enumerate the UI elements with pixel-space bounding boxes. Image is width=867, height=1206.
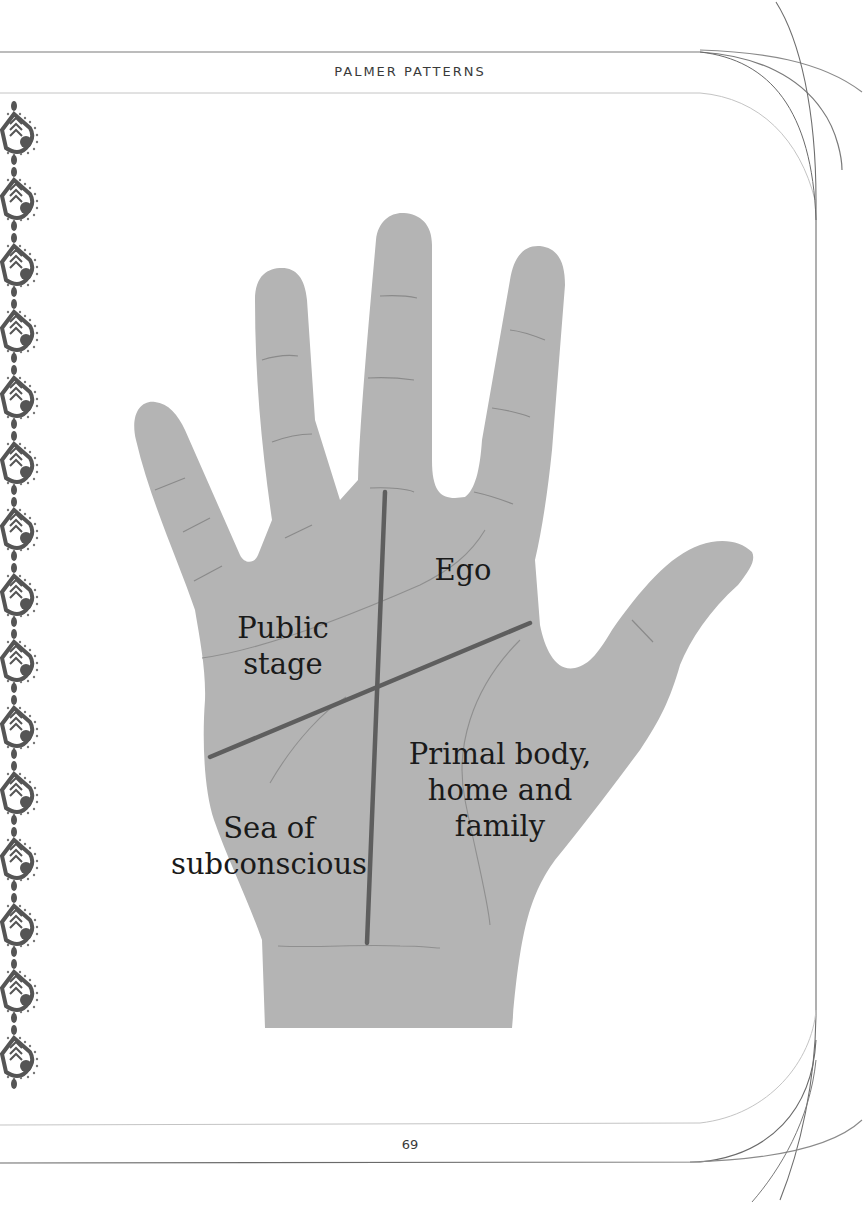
book-page: PALMER PATTERNS bbox=[0, 0, 867, 1206]
quadrant-label-ego: Ego bbox=[418, 552, 508, 588]
quadrant-label-public-stage: Public stage bbox=[218, 610, 348, 682]
hand-illustration bbox=[0, 0, 867, 1206]
quadrant-label-sea-of-subconscious: Sea of subconscious bbox=[170, 810, 368, 882]
page-number: 69 bbox=[0, 1137, 820, 1152]
quadrant-label-primal-body: Primal body, home and family bbox=[395, 736, 605, 844]
